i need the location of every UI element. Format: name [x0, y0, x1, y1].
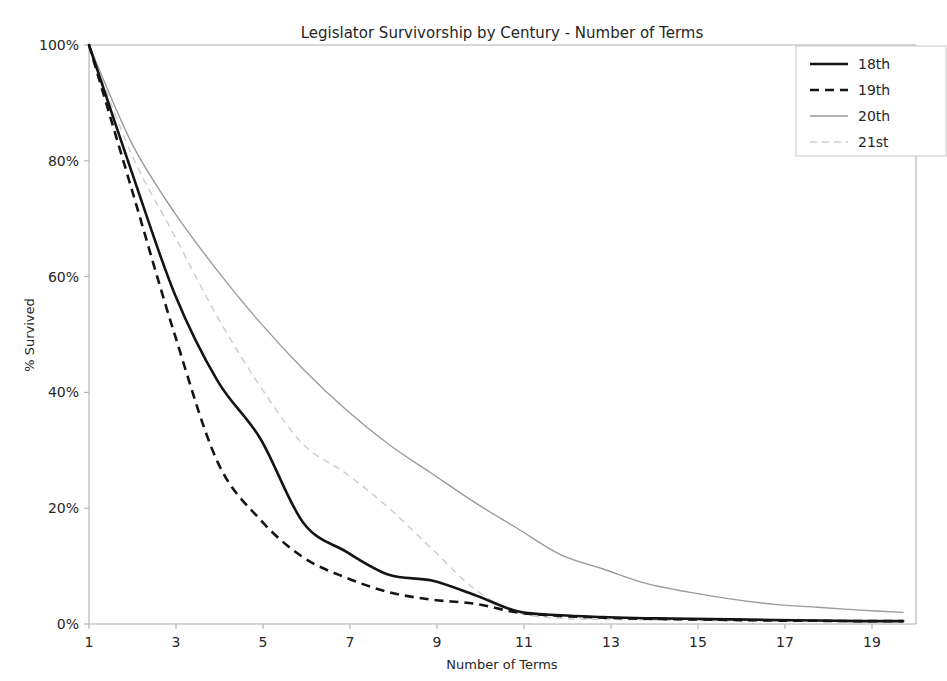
- x-axis-label: Number of Terms: [446, 657, 558, 672]
- x-tick-label-13: 13: [602, 634, 620, 650]
- x-axis-tick-labels: 1 3 5 7 9 11 13 15 17 19: [85, 634, 881, 650]
- legend-label-20th: 20th: [858, 108, 890, 124]
- x-tick-label-3: 3: [172, 634, 181, 650]
- x-tick-label-19: 19: [863, 634, 881, 650]
- y-tick-label-40: 40%: [48, 384, 79, 400]
- x-tick-label-15: 15: [689, 634, 707, 650]
- x-tick-label-9: 9: [433, 634, 442, 650]
- y-tick-label-20: 20%: [48, 500, 79, 516]
- y-tick-label-0: 0%: [57, 616, 79, 632]
- plot-area-background: [89, 45, 916, 624]
- chart-legend: 18th 19th 20th 21st: [796, 46, 946, 156]
- y-axis-tick-labels: 0% 20% 40% 60% 80% 100%: [39, 37, 79, 632]
- survivorship-line-chart: Legislator Survivorship by Century - Num…: [0, 0, 947, 681]
- legend-label-18th: 18th: [858, 56, 890, 72]
- y-tick-label-60: 60%: [48, 269, 79, 285]
- chart-title: Legislator Survivorship by Century - Num…: [301, 24, 704, 42]
- legend-label-21st: 21st: [858, 134, 889, 150]
- x-tick-label-11: 11: [515, 634, 533, 650]
- x-tick-label-17: 17: [776, 634, 794, 650]
- x-axis-tickmarks: [89, 624, 872, 629]
- y-tick-label-100: 100%: [39, 37, 79, 53]
- y-axis-label: % Survived: [22, 298, 37, 372]
- x-tick-label-1: 1: [85, 634, 94, 650]
- x-tick-label-5: 5: [259, 634, 268, 650]
- chart-figure: Legislator Survivorship by Century - Num…: [0, 0, 947, 681]
- x-tick-label-7: 7: [346, 634, 355, 650]
- y-axis-tickmarks: [84, 45, 89, 624]
- y-tick-label-80: 80%: [48, 153, 79, 169]
- legend-label-19th: 19th: [858, 82, 890, 98]
